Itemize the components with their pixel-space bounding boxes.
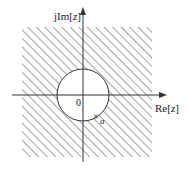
real-axis-label: Re[z] — [155, 102, 179, 114]
origin-label: 0 — [76, 97, 81, 108]
pole-marker-icon: × — [93, 111, 99, 122]
imag-axis-label: jIm[z] — [53, 10, 81, 22]
real-axis-arrow-icon — [159, 92, 167, 98]
z-plane-diagram: jIm[z] Re[z] 0 × a — [0, 0, 190, 174]
pole-label: a — [100, 116, 105, 126]
